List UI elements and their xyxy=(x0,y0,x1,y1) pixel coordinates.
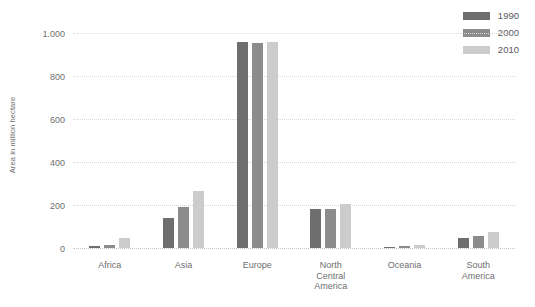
bar[interactable] xyxy=(384,247,395,248)
bar-group: North Central America xyxy=(294,33,368,248)
bar-chart: Area in million hectare 199020002010 1.0… xyxy=(0,0,535,307)
bar-group-bars xyxy=(368,33,442,248)
x-axis-category-label: Oceania xyxy=(370,260,440,271)
bar[interactable] xyxy=(473,236,484,248)
bar[interactable] xyxy=(237,42,248,248)
bar-groups: AfricaAsiaEuropeNorth Central AmericaOce… xyxy=(73,33,515,248)
plot-area: 1.0008006004002000 AfricaAsiaEuropeNorth… xyxy=(73,33,515,248)
y-axis-title-text: Area in million hectare xyxy=(8,70,17,200)
bar-group-bars xyxy=(294,33,368,248)
y-tick-label: 600 xyxy=(50,115,65,125)
y-tick-label: 800 xyxy=(50,72,65,82)
bar[interactable] xyxy=(488,232,499,248)
gridline: 0 xyxy=(73,248,515,249)
y-axis-title: Area in million hectare xyxy=(8,0,17,70)
legend-item[interactable]: 1990 xyxy=(463,10,519,21)
x-axis-category-label: Africa xyxy=(75,260,145,271)
bar[interactable] xyxy=(458,238,469,248)
bar[interactable] xyxy=(325,209,336,248)
bar[interactable] xyxy=(252,43,263,248)
bar-group-bars xyxy=(147,33,221,248)
bar-group: Africa xyxy=(73,33,147,248)
bar[interactable] xyxy=(119,238,130,248)
bar[interactable] xyxy=(310,209,321,248)
bar[interactable] xyxy=(399,246,410,248)
legend-label: 1990 xyxy=(498,10,519,21)
bar-group-bars xyxy=(220,33,294,248)
bar[interactable] xyxy=(178,207,189,248)
y-tick-label: 400 xyxy=(50,158,65,168)
bar-group-bars xyxy=(73,33,147,248)
y-tick-label: 0 xyxy=(60,244,65,254)
bar-group: Asia xyxy=(147,33,221,248)
bar[interactable] xyxy=(163,218,174,248)
x-axis-category-label: Europe xyxy=(222,260,292,271)
bar-group: Europe xyxy=(220,33,294,248)
bar-group: South America xyxy=(441,33,515,248)
bar[interactable] xyxy=(267,42,278,248)
bar[interactable] xyxy=(89,246,100,248)
y-tick-label: 1.000 xyxy=(42,29,65,39)
legend-swatch-icon xyxy=(463,12,490,20)
bar[interactable] xyxy=(340,204,351,248)
bar[interactable] xyxy=(414,245,425,248)
bar-group: Oceania xyxy=(368,33,442,248)
x-axis-category-label: North Central America xyxy=(296,260,366,292)
y-tick-label: 200 xyxy=(50,201,65,211)
bar-group-bars xyxy=(441,33,515,248)
x-axis-category-label: South America xyxy=(443,260,513,281)
bar[interactable] xyxy=(193,191,204,248)
x-axis-category-label: Asia xyxy=(149,260,219,271)
bar[interactable] xyxy=(104,245,115,248)
